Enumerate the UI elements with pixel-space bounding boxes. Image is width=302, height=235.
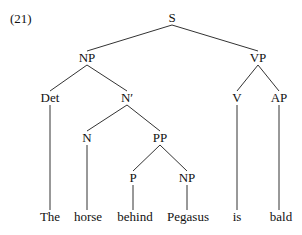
tree-branch — [127, 105, 160, 131]
tree-node-n: N — [82, 131, 91, 145]
tree-branch — [87, 25, 172, 51]
terminal-word: horse — [74, 210, 102, 224]
terminal-word: bald — [270, 210, 292, 224]
tree-branch — [87, 105, 127, 131]
terminal-word: Pegasus — [167, 210, 209, 224]
tree-node-np1: NP — [79, 51, 96, 65]
tree-node-s: S — [168, 11, 175, 25]
tree-node-np2: NP — [179, 171, 196, 185]
tree-node-p: P — [129, 171, 136, 185]
tree-branch — [237, 65, 258, 91]
example-number: (21) — [10, 11, 32, 27]
tree-branch — [160, 145, 187, 171]
tree-node-ap: AP — [271, 91, 288, 105]
tree-branch — [172, 25, 258, 51]
terminal-word: behind — [117, 210, 152, 224]
tree-branch — [87, 65, 127, 91]
tree-node-nbar: N′ — [121, 91, 133, 105]
tree-node-det: Det — [41, 91, 60, 105]
tree-node-pp: PP — [153, 131, 167, 145]
tree-node-v: V — [232, 91, 241, 105]
tree-node-vp: VP — [250, 51, 267, 65]
tree-branch — [50, 65, 87, 91]
terminal-word: The — [40, 210, 60, 224]
terminal-word: is — [233, 210, 242, 224]
tree-branch — [133, 145, 160, 171]
tree-branch — [258, 65, 279, 91]
tree-edges — [0, 0, 302, 235]
